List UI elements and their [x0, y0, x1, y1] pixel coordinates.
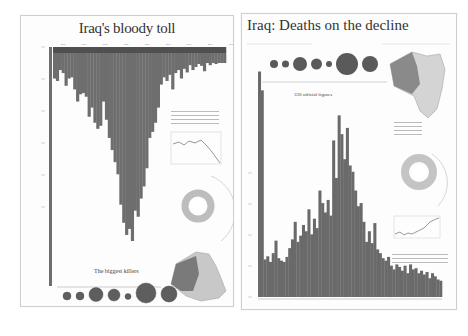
poster-iraqs-bloody-toll: Iraq's bloody toll 200320042005200620072…	[20, 15, 234, 307]
svg-text:2009: 2009	[187, 43, 192, 45]
svg-text:2005: 2005	[103, 43, 108, 45]
svg-text:2004: 2004	[82, 43, 87, 45]
poster-deaths-on-the-decline: Iraq: Deaths on the decline 330 official…	[241, 13, 457, 310]
inverted-bar-chart: 200320042005200620072008200920102011	[21, 16, 233, 306]
svg-text:2006: 2006	[124, 43, 129, 45]
svg-text:2011: 2011	[229, 43, 233, 45]
svg-text:2010: 2010	[208, 43, 213, 45]
annotation: 330 official figures	[294, 92, 332, 97]
bar-chart	[242, 14, 456, 309]
svg-text:2008: 2008	[166, 43, 171, 45]
section-title: The biggest killers	[94, 268, 139, 274]
svg-text:2007: 2007	[145, 43, 150, 45]
svg-text:2003: 2003	[61, 43, 66, 45]
